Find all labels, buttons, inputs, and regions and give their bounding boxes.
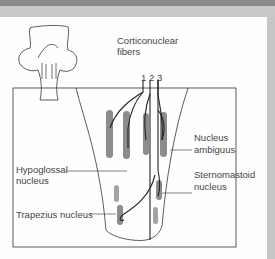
corticonuclear-label-2: fibers xyxy=(117,46,140,57)
fiber-number-3: 3 xyxy=(157,72,162,83)
nucleus-ambiguus-label-2: ambiguus xyxy=(194,144,235,155)
fiber-number-1: 1 xyxy=(141,72,146,83)
hypoglossal-label-1: Hypoglossal xyxy=(16,164,68,175)
fiber-number-2: 2 xyxy=(149,72,154,83)
trapezius-label: Trapezius nucleus xyxy=(16,209,93,220)
leader-lines xyxy=(66,150,192,214)
hypoglossal-label-2: nucleus xyxy=(16,175,49,186)
sternomastoid-label-1: Sternomastoid xyxy=(194,169,255,180)
corticonuclear-label-1: Corticonuclear xyxy=(117,35,178,46)
brainstem-inset xyxy=(19,25,77,100)
sternomastoid-label-2: nucleus xyxy=(194,181,227,192)
inset-nuclei xyxy=(41,63,57,79)
nucleus-ambiguus-label-1: Nucleus xyxy=(194,132,228,143)
